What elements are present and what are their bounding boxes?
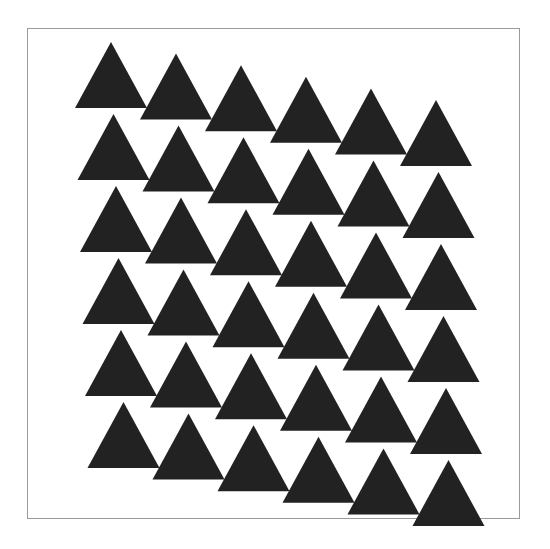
triangle-shape — [150, 342, 222, 408]
triangle-shape — [338, 160, 410, 226]
triangle-shape — [85, 330, 157, 396]
triangle-shape — [273, 149, 345, 215]
triangle-shape — [343, 304, 415, 370]
triangle-shape — [75, 42, 147, 108]
triangle-shape — [400, 100, 472, 166]
triangle-shape — [78, 114, 150, 180]
triangle-shape — [148, 270, 220, 336]
triangle-shape — [143, 126, 215, 192]
triangle-shape — [88, 402, 160, 468]
triangle-shape — [140, 54, 212, 120]
triangle-shape — [340, 232, 412, 298]
triangle-shape — [213, 281, 285, 347]
triangle-shape — [335, 88, 407, 154]
triangle-shape — [218, 425, 290, 491]
triangle-shape — [83, 258, 155, 324]
triangle-shape — [208, 137, 280, 203]
triangle-shape — [215, 353, 287, 419]
triangle-shape — [408, 316, 480, 382]
triangle-shape — [348, 448, 420, 514]
triangle-shape — [403, 172, 475, 238]
triangle-shape — [270, 77, 342, 143]
triangle-shape — [205, 65, 277, 131]
triangle-shape — [80, 186, 152, 252]
triangle-shape — [345, 376, 417, 442]
triangle-shape — [278, 293, 350, 359]
triangle-shape — [280, 365, 352, 431]
triangle-shape — [283, 437, 355, 503]
triangle-shape — [153, 414, 225, 480]
triangle-grid — [0, 0, 550, 549]
triangle-shape — [210, 209, 282, 275]
triangle-shape — [405, 244, 477, 310]
triangle-shape — [145, 198, 217, 264]
triangle-shape — [413, 460, 485, 526]
triangle-shape — [410, 388, 482, 454]
triangle-shape — [275, 221, 347, 287]
